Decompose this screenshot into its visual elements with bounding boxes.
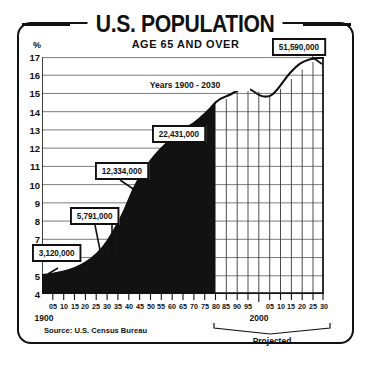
chart-screenshot: U.S. POPULATION AGE 65 AND OVER % 17 16 … xyxy=(0,0,373,370)
callout-1900-value: 3,120,000 xyxy=(32,244,81,262)
callout-2030-value: 51,590,000 xyxy=(272,38,326,56)
callout-1930-value: 5,791,000 xyxy=(70,207,119,225)
source-attribution: Source: U.S. Census Bureau xyxy=(44,326,147,335)
callout-1950-value: 12,334,000 xyxy=(95,162,149,180)
callout-1970-value: 22,431,000 xyxy=(152,125,206,143)
